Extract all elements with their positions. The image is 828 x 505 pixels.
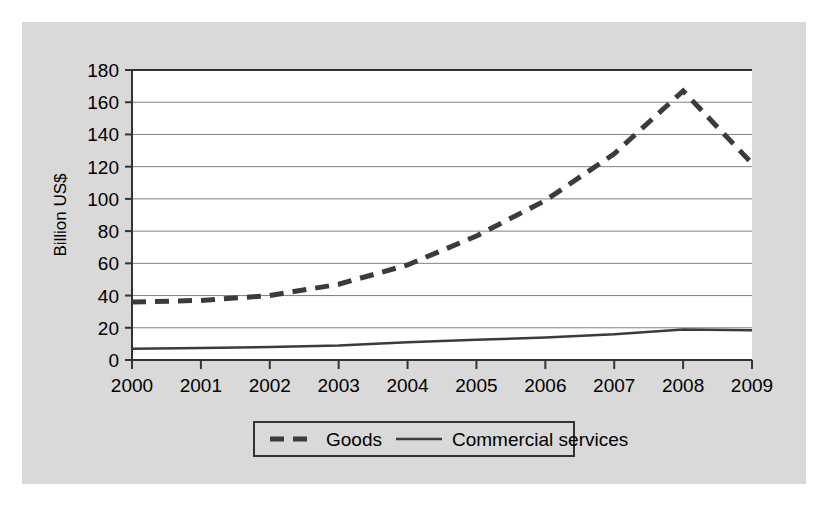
y-tick-label: 80 [98,221,119,242]
x-tick-label: 2003 [318,375,360,396]
x-tick-label: 2005 [455,375,497,396]
y-axis-ticks: 020406080100120140160180 [87,60,132,371]
y-tick-label: 180 [87,60,119,81]
x-tick-label: 2009 [731,375,773,396]
y-tick-label: 120 [87,157,119,178]
chart-panel: 020406080100120140160180 200020012002200… [22,22,806,484]
y-tick-label: 140 [87,124,119,145]
y-tick-label: 100 [87,189,119,210]
legend-label-commercial-services: Commercial services [452,429,628,450]
x-tick-label: 2002 [249,375,291,396]
chart-figure: 020406080100120140160180 200020012002200… [0,0,828,505]
y-tick-label: 40 [98,286,119,307]
x-tick-label: 2006 [524,375,566,396]
legend-label-goods: Goods [326,429,382,450]
x-tick-label: 2001 [180,375,222,396]
x-tick-label: 2000 [111,375,153,396]
x-tick-label: 2008 [662,375,704,396]
y-tick-label: 60 [98,253,119,274]
line-chart: 020406080100120140160180 200020012002200… [22,22,806,484]
chart-legend: GoodsCommercial services [254,422,628,456]
y-axis-label: Billion US$ [51,173,70,257]
x-tick-label: 2007 [593,375,635,396]
y-tick-label: 20 [98,318,119,339]
y-tick-label: 0 [108,350,119,371]
x-tick-label: 2004 [386,375,429,396]
y-tick-label: 160 [87,92,119,113]
x-axis-ticks: 2000200120022003200420052006200720082009 [111,360,773,396]
